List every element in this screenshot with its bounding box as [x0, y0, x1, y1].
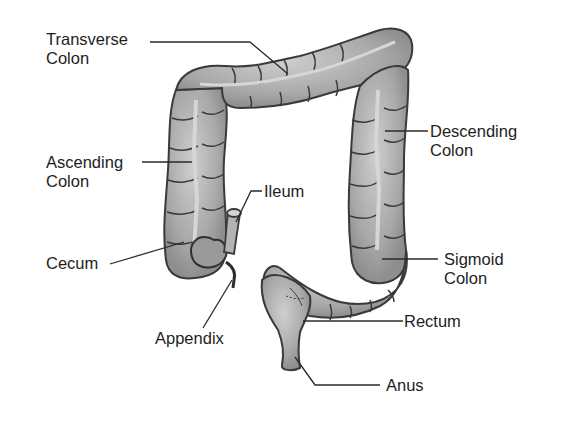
label-ileum: Ileum: [264, 182, 304, 201]
leader-appendix: [203, 280, 232, 328]
leader-anus: [295, 357, 380, 385]
label-ascending-colon: Ascending Colon: [46, 153, 123, 191]
label-transverse-colon: Transverse Colon: [46, 30, 128, 68]
descending-colon-shape: [349, 66, 409, 283]
label-descending-colon: Descending Colon: [430, 122, 517, 160]
label-cecum: Cecum: [46, 254, 98, 273]
cecum-shape: [191, 237, 226, 268]
label-appendix: Appendix: [155, 329, 224, 348]
label-anus: Anus: [386, 376, 424, 395]
label-sigmoid-colon: Sigmoid Colon: [444, 250, 504, 288]
label-rectum: Rectum: [404, 312, 461, 331]
rectum-shape: [262, 275, 311, 370]
